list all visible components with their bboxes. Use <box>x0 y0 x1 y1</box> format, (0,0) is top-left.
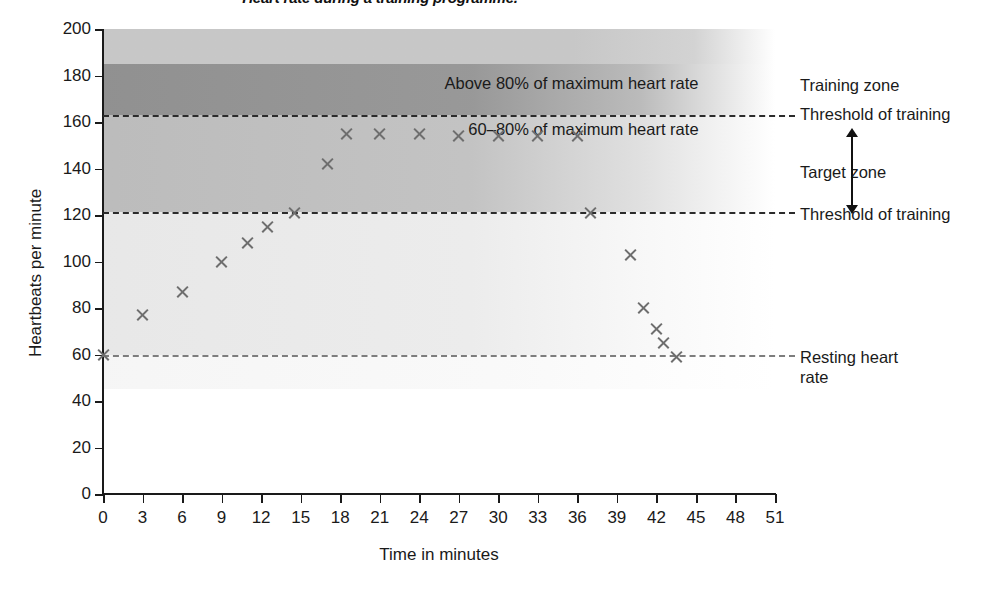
x-axis-title: Time in minutes <box>103 545 775 565</box>
data-point <box>656 335 671 350</box>
legend-resting-line1: Resting heart <box>800 348 898 367</box>
y-tick-label: 40 <box>72 391 91 411</box>
x-tick-label: 12 <box>252 508 271 528</box>
x-tick <box>419 494 421 503</box>
zone-annotation: Above 80% of maximum heart rate <box>103 74 699 93</box>
x-tick <box>498 494 500 503</box>
data-point <box>491 128 506 143</box>
x-tick <box>459 494 461 503</box>
data-point <box>669 349 684 364</box>
zone-annotation: 60–80% of maximum heart rate <box>103 120 699 139</box>
data-point <box>240 235 255 250</box>
data-point <box>451 128 466 143</box>
y-tick-label: 140 <box>63 159 91 179</box>
arrow-stem <box>851 136 853 206</box>
y-tick <box>95 448 103 450</box>
data-point <box>570 128 585 143</box>
x-tick-label: 51 <box>766 508 785 528</box>
x-tick-label: 39 <box>607 508 626 528</box>
x-tick <box>143 494 145 503</box>
x-tick <box>222 494 224 503</box>
y-tick <box>95 262 103 264</box>
x-tick <box>380 494 382 503</box>
x-tick <box>735 494 737 503</box>
y-axis-title: Heartbeats per minute <box>26 143 46 403</box>
x-tick <box>538 494 540 503</box>
legend-threshold-upper: Threshold of training <box>800 105 950 124</box>
x-tick-label: 48 <box>726 508 745 528</box>
chart-canvas: Heart rate during a training programme. … <box>0 0 999 590</box>
x-tick-label: 0 <box>98 508 107 528</box>
x-tick-label: 33 <box>528 508 547 528</box>
x-tick-label: 6 <box>177 508 186 528</box>
data-point <box>320 156 335 171</box>
data-point <box>214 254 229 269</box>
y-tick-label: 20 <box>72 438 91 458</box>
y-tick <box>95 215 103 217</box>
data-point <box>339 126 354 141</box>
data-point <box>623 247 638 262</box>
band-below-threshold <box>103 212 775 355</box>
y-tick-label: 180 <box>63 66 91 86</box>
x-tick-label: 36 <box>568 508 587 528</box>
y-tick <box>95 122 103 124</box>
band-cap <box>103 29 775 64</box>
arrow-down-icon <box>846 205 858 214</box>
reference-line <box>103 355 795 357</box>
x-tick-label: 18 <box>331 508 350 528</box>
y-tick-label: 100 <box>63 252 91 272</box>
x-tick <box>340 494 342 503</box>
target-zone-arrow <box>843 128 861 214</box>
x-tick <box>577 494 579 503</box>
x-tick <box>775 494 777 503</box>
data-point <box>372 126 387 141</box>
data-point <box>649 321 664 336</box>
x-tick-label: 21 <box>370 508 389 528</box>
x-tick-label: 24 <box>410 508 429 528</box>
legend-training-zone: Training zone <box>800 76 899 95</box>
y-tick <box>95 308 103 310</box>
reference-line <box>103 115 795 117</box>
y-tick-label: 200 <box>63 19 91 39</box>
y-tick <box>95 169 103 171</box>
legend-resting-line2: rate <box>800 368 828 387</box>
x-tick <box>103 494 105 503</box>
chart-title: Heart rate during a training programme. <box>0 0 760 6</box>
y-tick-label: 160 <box>63 112 91 132</box>
y-tick <box>95 29 103 31</box>
x-tick-label: 3 <box>138 508 147 528</box>
legend-column: Training zone Threshold of training Targ… <box>800 0 999 590</box>
y-tick <box>95 76 103 78</box>
reference-line <box>103 212 795 214</box>
data-point <box>583 205 598 220</box>
x-tick <box>261 494 263 503</box>
x-tick-label: 27 <box>449 508 468 528</box>
x-axis-line <box>103 493 776 495</box>
y-tick-label: 80 <box>72 298 91 318</box>
x-tick-label: 42 <box>647 508 666 528</box>
x-tick <box>696 494 698 503</box>
data-point <box>260 219 275 234</box>
y-tick-label: 0 <box>82 484 91 504</box>
data-point <box>96 347 111 362</box>
data-point <box>135 307 150 322</box>
legend-threshold-lower: Threshold of training <box>800 205 950 224</box>
x-tick <box>656 494 658 503</box>
y-tick <box>95 494 103 496</box>
x-tick-label: 45 <box>686 508 705 528</box>
y-tick-label: 60 <box>72 345 91 365</box>
data-point <box>530 128 545 143</box>
x-tick-label: 15 <box>291 508 310 528</box>
x-tick <box>617 494 619 503</box>
x-tick-label: 30 <box>489 508 508 528</box>
data-point <box>287 205 302 220</box>
data-point <box>636 301 651 316</box>
plot-area: 020406080100120140160180200 036912151821… <box>103 29 775 494</box>
x-tick <box>301 494 303 503</box>
y-tick-label: 120 <box>63 205 91 225</box>
data-point <box>412 126 427 141</box>
x-tick <box>182 494 184 503</box>
y-tick <box>95 401 103 403</box>
x-tick-label: 9 <box>217 508 226 528</box>
data-point <box>175 284 190 299</box>
